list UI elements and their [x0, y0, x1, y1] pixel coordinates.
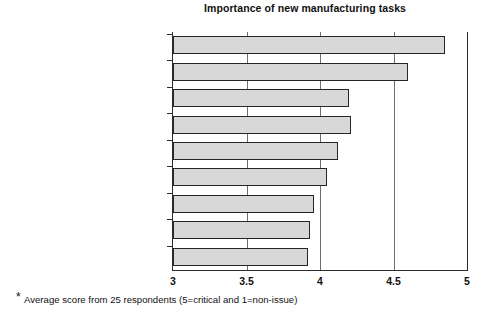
y-axis-tick: [167, 113, 173, 114]
y-axis-tick: [167, 140, 173, 141]
right-axis-line: [467, 32, 468, 271]
y-axis-tick: [167, 166, 173, 167]
bar: [173, 221, 310, 239]
page-title: Importance of new manufacturing tasks: [0, 2, 495, 14]
bar: [173, 89, 349, 107]
bar: [173, 116, 351, 134]
x-axis-tick-label: 4.5: [374, 275, 414, 287]
bar: [173, 168, 327, 186]
bar: [173, 195, 314, 213]
x-axis-tick-label: 4: [300, 275, 340, 287]
footnote-marker: *: [16, 292, 21, 302]
bar: [173, 36, 445, 54]
y-axis-tick: [167, 34, 173, 35]
x-axis-tick-label: 3.5: [227, 275, 267, 287]
x-axis-line: [172, 270, 468, 271]
y-axis-tick: [167, 193, 173, 194]
bar: [173, 63, 408, 81]
bar: [173, 142, 338, 160]
y-axis-tick: [167, 246, 173, 247]
footnote-text: Average score from 25 respondents (5=cri…: [24, 294, 297, 305]
y-axis-tick: [167, 87, 173, 88]
x-axis-tick-label: 3: [153, 275, 193, 287]
chart-figure: Importance of new manufacturing tasks 33…: [0, 0, 495, 314]
bar: [173, 248, 308, 266]
y-axis-tick: [167, 60, 173, 61]
plot-area: 33.544.55: [173, 32, 467, 270]
x-axis-tick-label: 5: [447, 275, 487, 287]
y-axis-tick: [167, 219, 173, 220]
